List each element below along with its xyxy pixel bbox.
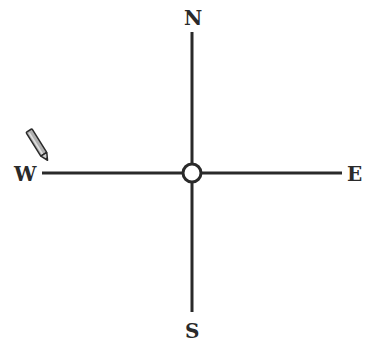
east-label: E xyxy=(347,164,362,184)
south-label: S xyxy=(185,321,199,341)
west-label: W xyxy=(14,164,36,184)
center-point xyxy=(183,164,201,182)
north-label: N xyxy=(184,8,202,28)
pencil-icon xyxy=(26,129,50,162)
compass-diagram xyxy=(0,0,369,347)
